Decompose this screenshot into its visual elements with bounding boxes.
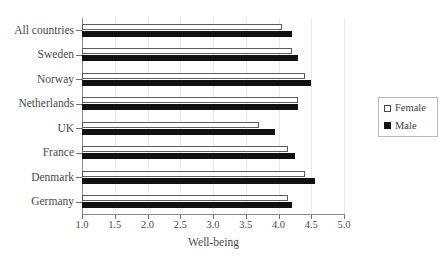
bar-group xyxy=(82,165,344,190)
bar-male xyxy=(82,178,315,184)
legend-item-male: Male xyxy=(384,121,432,132)
bar-male xyxy=(82,202,292,208)
bar-group xyxy=(82,190,344,215)
legend-label: Female xyxy=(395,103,426,114)
value-tick-label: 2.0 xyxy=(141,220,154,231)
gridline xyxy=(344,18,345,214)
x-axis-title: Well-being xyxy=(82,236,345,248)
category-axis-labels: All countries Sweden Norway Netherlands … xyxy=(0,18,78,214)
category-label: Germany xyxy=(0,190,78,215)
value-axis-ticks: 1.01.52.02.53.03.54.04.55.0 xyxy=(82,215,345,231)
value-tick-label: 4.5 xyxy=(305,220,318,231)
bar-female xyxy=(82,146,288,152)
bar-male xyxy=(82,153,295,159)
bar-male xyxy=(82,129,275,135)
bar-group xyxy=(82,116,344,141)
value-tick-label: 4.0 xyxy=(272,220,285,231)
category-label: Norway xyxy=(0,67,78,92)
value-tick-label: 3.0 xyxy=(206,220,219,231)
value-tick-label: 1.5 xyxy=(108,220,121,231)
well-being-bar-chart: All countries Sweden Norway Netherlands … xyxy=(0,0,446,261)
value-tick-label: 2.5 xyxy=(174,220,187,231)
legend-item-female: Female xyxy=(384,103,432,114)
bar-group xyxy=(82,67,344,92)
value-tick-label: 1.0 xyxy=(75,220,88,231)
filled-square-swatch-icon xyxy=(384,122,391,129)
bar-female xyxy=(82,195,288,201)
plot-area xyxy=(82,18,344,214)
bar-female xyxy=(82,48,292,54)
category-label: UK xyxy=(0,116,78,141)
value-tick-label: 3.5 xyxy=(239,220,252,231)
category-label: All countries xyxy=(0,18,78,43)
legend: Female Male xyxy=(378,97,438,137)
category-label: France xyxy=(0,141,78,166)
bar-male xyxy=(82,104,298,110)
open-square-swatch-icon xyxy=(384,105,391,112)
bar-female xyxy=(82,171,305,177)
bar-female xyxy=(82,24,282,30)
bar-female xyxy=(82,73,305,79)
bar-group xyxy=(82,18,344,43)
bar-group xyxy=(82,92,344,117)
value-tick-label: 5.0 xyxy=(337,220,350,231)
legend-label: Male xyxy=(395,121,417,132)
bar-male xyxy=(82,55,298,61)
category-label: Denmark xyxy=(0,165,78,190)
bar-female xyxy=(82,97,298,103)
bar-male xyxy=(82,80,311,86)
bar-male xyxy=(82,31,292,37)
category-label: Netherlands xyxy=(0,92,78,117)
bar-group xyxy=(82,43,344,68)
category-label: Sweden xyxy=(0,43,78,68)
bar-group xyxy=(82,141,344,166)
bar-female xyxy=(82,122,259,128)
